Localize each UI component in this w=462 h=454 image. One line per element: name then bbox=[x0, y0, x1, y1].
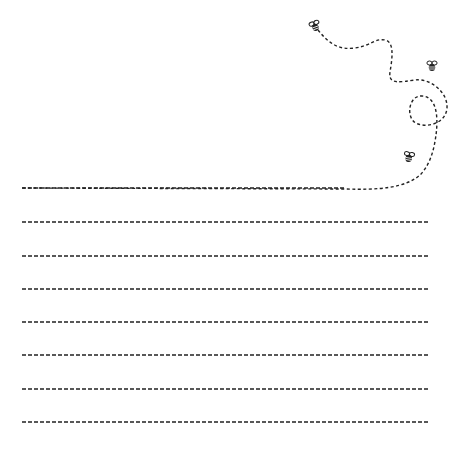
bee-flight-path bbox=[22, 30, 447, 189]
bee-icon bbox=[308, 20, 321, 33]
bees-group bbox=[308, 20, 437, 163]
writing-lines bbox=[22, 188, 430, 422]
stationery-page bbox=[0, 0, 462, 454]
bee-icon bbox=[427, 61, 437, 71]
bee-icon bbox=[403, 151, 415, 163]
